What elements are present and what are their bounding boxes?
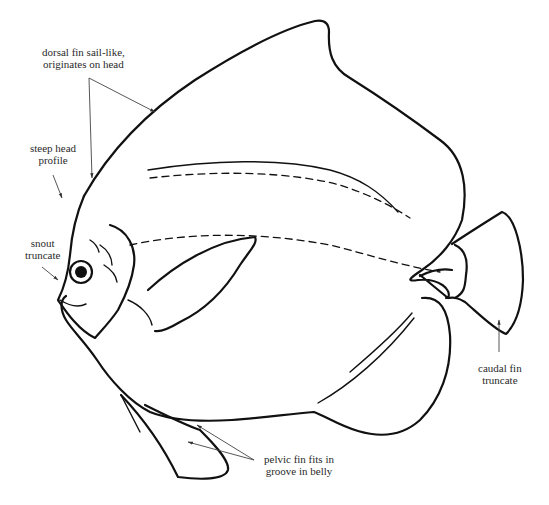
- fish-drawing: [0, 0, 549, 505]
- caudal-fin-label: caudal fin truncate: [478, 362, 522, 386]
- annotation-pointers: [42, 78, 499, 460]
- pelvic-fin: [121, 395, 228, 479]
- snout-label-line1: snout: [25, 237, 60, 249]
- pelvic-fin-label: pelvic fin fits in groove in belly: [264, 453, 334, 477]
- head-profile-label-line2: profile: [30, 154, 76, 166]
- snout-label-line2: truncate: [25, 249, 60, 261]
- lateral-lines: [130, 162, 440, 272]
- snout-label: snout truncate: [25, 237, 60, 261]
- caudal-fin-label-line2: truncate: [478, 374, 522, 386]
- caudal-fin-label-line1: caudal fin: [478, 362, 522, 374]
- head-profile-label-line1: steep head: [30, 142, 76, 154]
- dorsal-fin-label-line2: originates on head: [42, 58, 125, 70]
- body-outline: [62, 21, 465, 435]
- dorsal-fin-label-line1: dorsal fin sail-like,: [42, 46, 125, 58]
- pelvic-fin-label-line2: groove in belly: [264, 465, 334, 477]
- pectoral-fin: [128, 237, 256, 331]
- pelvic-fin-label-line1: pelvic fin fits in: [264, 453, 334, 465]
- dorsal-fin-label: dorsal fin sail-like, originates on head: [42, 46, 125, 70]
- head: [58, 196, 134, 338]
- head-profile-label: steep head profile: [30, 142, 76, 166]
